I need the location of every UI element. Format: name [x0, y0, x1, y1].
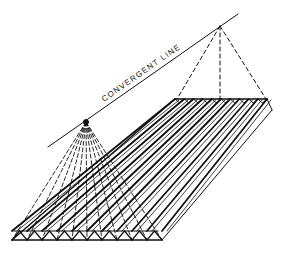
- ridge-profile: [12, 231, 20, 240]
- ridge-profile: [35, 231, 43, 240]
- convergent-line-diagram: CONVERGENT LINE: [0, 0, 282, 254]
- convergent-line-label: CONVERGENT LINE: [100, 42, 182, 103]
- ridge-line: [147, 99, 258, 231]
- ridge-line: [57, 99, 203, 231]
- ridge-profile: [125, 231, 133, 240]
- ridge-profile: [20, 231, 28, 240]
- ridge-profile: [42, 231, 50, 240]
- far-projection-line: [177, 26, 220, 99]
- ridge-profile: [132, 231, 140, 240]
- ridge-profile: [50, 231, 58, 240]
- ridge-profile: [102, 231, 110, 240]
- ridge-profile: [80, 231, 88, 240]
- ridge-profile: [155, 231, 163, 240]
- ridge-profile: [147, 231, 155, 240]
- ridge-profile: [87, 231, 95, 240]
- ridge-profile: [117, 231, 125, 240]
- ridge-profile: [65, 231, 73, 240]
- far-projection-line: [220, 26, 266, 99]
- ridge-line: [27, 99, 184, 231]
